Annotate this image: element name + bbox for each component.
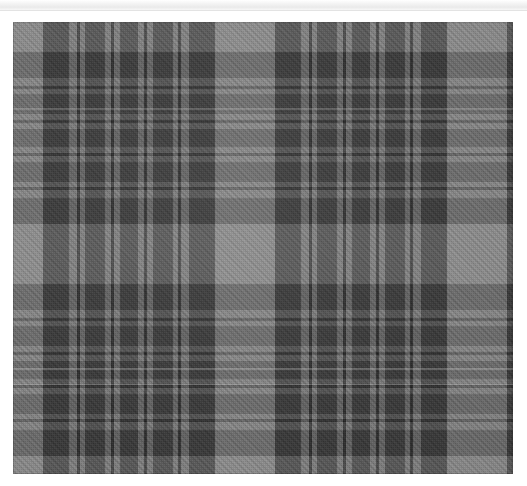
chrome-divider-line bbox=[0, 10, 527, 11]
swatch-inner-edge bbox=[13, 22, 513, 474]
screenshot-viewport bbox=[0, 0, 527, 486]
cropped-window-chrome-strip bbox=[0, 0, 527, 10]
tartan-fabric-swatch bbox=[13, 22, 513, 474]
